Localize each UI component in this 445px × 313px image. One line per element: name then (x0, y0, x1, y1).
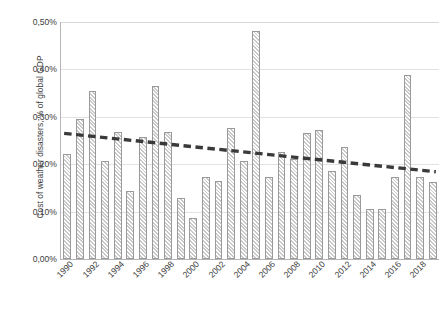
bar (290, 159, 298, 259)
y-axis-tick-label: 0,40% (20, 64, 57, 74)
y-axis-tick-label: 0,30% (20, 112, 57, 122)
x-axis-tick-label: 2000 (176, 259, 201, 284)
bar (429, 182, 437, 259)
x-axis-tick-label: 2010 (302, 259, 327, 284)
bar (139, 137, 147, 259)
bar (114, 132, 122, 259)
bar (189, 218, 197, 259)
bar (101, 161, 109, 259)
x-axis-tick-label: 1994 (100, 259, 125, 284)
y-axis-tick-labels: 0,00%0,10%0,20%0,30%0,40%0,50% (20, 0, 57, 313)
bar (366, 209, 374, 259)
bar (177, 198, 185, 259)
x-axis-tick-label: 2018 (403, 259, 428, 284)
bar (303, 133, 311, 259)
bar (152, 86, 160, 259)
bar (252, 31, 260, 259)
x-axis-tick-label: 2016 (378, 259, 403, 284)
bar (341, 147, 349, 259)
bar (328, 171, 336, 259)
y-axis-tick-label: 0,00% (20, 254, 57, 264)
bar (416, 177, 424, 259)
bar (391, 177, 399, 259)
bar (404, 75, 412, 259)
plot-area (60, 22, 439, 260)
x-axis-tick-labels: 1990199219941996199820002002200420062008… (60, 259, 438, 313)
bar (265, 177, 273, 259)
bar (63, 154, 71, 259)
bar (164, 132, 172, 259)
x-axis-tick-label: 2006 (252, 259, 277, 284)
x-axis-tick-label: 2014 (352, 259, 377, 284)
bar (278, 152, 286, 259)
y-axis-tick-label: 0,50% (20, 17, 57, 27)
x-axis-tick-label: 2002 (201, 259, 226, 284)
bar (126, 191, 134, 259)
bar (89, 91, 97, 259)
bar (202, 177, 210, 259)
y-axis-tick-label: 0,20% (20, 159, 57, 169)
x-axis-tick-label: 1998 (151, 259, 176, 284)
bar (315, 130, 323, 259)
bar (353, 195, 361, 259)
x-axis-tick-label: 1996 (126, 259, 151, 284)
x-axis-tick-label: 2004 (226, 259, 251, 284)
bar (378, 209, 386, 259)
bar-series (61, 22, 439, 259)
weather-disaster-cost-chart: Cost of weather disasters, % of global G… (0, 0, 445, 313)
bar (227, 128, 235, 259)
bar (240, 161, 248, 259)
bar (215, 181, 223, 259)
bar (76, 119, 84, 259)
y-axis-tick-label: 0,10% (20, 207, 57, 217)
x-axis-tick-label: 2012 (327, 259, 352, 284)
x-axis-tick-label: 1992 (75, 259, 100, 284)
x-axis-tick-label: 2008 (277, 259, 302, 284)
